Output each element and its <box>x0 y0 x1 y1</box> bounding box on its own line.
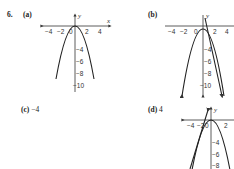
svg-text:0: 0 <box>205 122 209 129</box>
svg-text:2: 2 <box>224 122 228 129</box>
svg-text:−6: −6 <box>212 151 220 158</box>
svg-text:−8: −8 <box>212 162 220 169</box>
graph-d: y −4−20 2 −4−6−8 <box>0 0 234 169</box>
svg-text:y: y <box>213 106 218 114</box>
graph-d-axes: y −4−20 2 −4−6−8 <box>183 106 234 169</box>
svg-text:−4: −4 <box>187 122 195 129</box>
svg-text:−4: −4 <box>212 139 220 146</box>
graph-d-tangent-line <box>190 110 208 169</box>
